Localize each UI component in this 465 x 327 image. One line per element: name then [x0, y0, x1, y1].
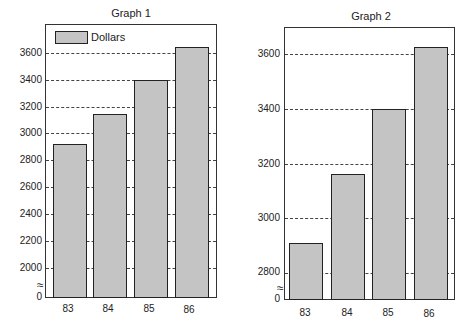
x-tick-label: 85 [373, 307, 403, 318]
bar-86 [414, 47, 448, 300]
bar-84 [331, 174, 365, 300]
legend-label: Dollars [91, 31, 125, 43]
y-tick-label: 3400 [4, 75, 42, 85]
bar-84 [93, 114, 127, 298]
y-tick-label: 3200 [242, 159, 280, 169]
y-tick-label: 3400 [242, 104, 280, 114]
graph-1-title: Graph 1 [71, 7, 191, 19]
x-tick-label: 86 [414, 308, 444, 319]
y-tick-label: 3000 [242, 213, 280, 223]
y-tick-label: 2200 [4, 236, 42, 246]
y-tick-label: 3600 [4, 48, 42, 58]
y-tick-label: 0 [4, 292, 42, 302]
y-tick-label: 3600 [242, 49, 280, 59]
y-tick-label: 2400 [4, 209, 42, 219]
bar-83 [289, 243, 323, 300]
y-tick-label: 2000 [4, 263, 42, 273]
axis-break-icon: ≈ [277, 282, 284, 294]
axis-break-icon: ≈ [37, 279, 44, 291]
x-tick-label: 84 [93, 303, 123, 314]
y-tick-label: 2600 [4, 182, 42, 192]
y-tick-label: 2800 [4, 155, 42, 165]
x-tick-label: 83 [290, 307, 320, 318]
x-tick-label: 86 [174, 304, 204, 315]
x-tick-label: 83 [53, 303, 83, 314]
bar-83 [53, 144, 87, 298]
y-tick-label: 2800 [242, 267, 280, 277]
x-tick-label: 85 [134, 303, 164, 314]
legend-swatch [55, 31, 88, 44]
y-tick-label: 3000 [4, 128, 42, 138]
bar-85 [134, 80, 168, 298]
y-tick-label: 0 [242, 294, 280, 304]
bar-86 [175, 47, 209, 298]
y-tick-label: 3200 [4, 102, 42, 112]
x-tick-label: 84 [332, 307, 362, 318]
graph-2-title: Graph 2 [311, 10, 431, 22]
bar-85 [372, 109, 406, 300]
